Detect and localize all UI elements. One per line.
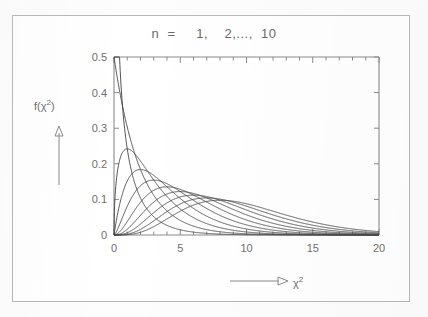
curve-n6 [114, 187, 379, 235]
svg-text:15: 15 [307, 242, 319, 254]
svg-text:20: 20 [373, 242, 385, 254]
svg-text:10: 10 [240, 242, 252, 254]
curve-n3 [114, 149, 379, 235]
svg-text:0.2: 0.2 [92, 158, 107, 170]
svg-text:0.1: 0.1 [92, 193, 107, 205]
plot-frame [114, 57, 379, 235]
tick-labels: 0510152000.10.20.30.40.5 [92, 51, 385, 254]
y-axis-arrow-icon [55, 126, 63, 185]
tick-marks [114, 57, 379, 235]
svg-text:0.3: 0.3 [92, 122, 107, 134]
x-axis-arrow-icon [230, 277, 288, 285]
curve-n1 [114, 57, 379, 235]
curve-n2 [114, 57, 379, 235]
density-curves [114, 57, 379, 235]
svg-text:5: 5 [177, 242, 183, 254]
svg-text:0: 0 [111, 242, 117, 254]
svg-text:0.5: 0.5 [92, 51, 107, 63]
figure-root: n = 1, 2,..., 10 f(χ2) χ2 0510152000.10.… [0, 0, 428, 317]
svg-text:0: 0 [101, 229, 107, 241]
chi-square-plot: 0510152000.10.20.30.40.5 [0, 0, 428, 317]
svg-text:0.4: 0.4 [92, 87, 107, 99]
